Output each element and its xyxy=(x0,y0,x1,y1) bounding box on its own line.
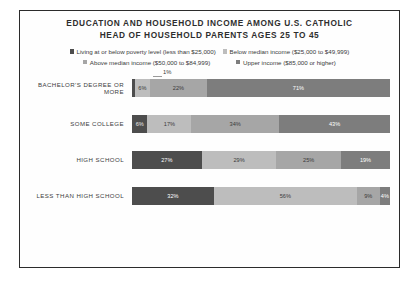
legend-item-upper-income: Upper income ($85,000 or higher) xyxy=(236,59,336,66)
legend-swatch-icon xyxy=(223,49,227,53)
legend-label: Below median income ($25,000 to $49,999) xyxy=(230,48,350,55)
chart-title-line-2: HEAD OF HOUSEHOLD PARENTS AGES 25 TO 45 xyxy=(32,30,387,42)
chart-title: EDUCATION AND HOUSEHOLD INCOME AMONG U.S… xyxy=(20,18,399,41)
bar-segment[interactable]: 29% xyxy=(202,151,277,169)
stacked-bar: 6%22%71% xyxy=(132,79,390,97)
bar-row: SOME COLLEGE6%17%34%43% xyxy=(20,115,399,133)
legend-item-below-median: Below median income ($25,000 to $49,999) xyxy=(223,48,349,55)
category-label: HIGH SCHOOL xyxy=(20,156,132,163)
bar-segment[interactable]: 56% xyxy=(214,187,357,205)
category-label: SOME COLLEGE xyxy=(20,120,132,127)
category-label: BACHELOR'S DEGREE OR MORE xyxy=(20,81,132,95)
bar-segment[interactable]: 22% xyxy=(150,79,207,97)
bar-segment[interactable]: 34% xyxy=(191,115,279,133)
bar-segment[interactable]: 32% xyxy=(132,187,214,205)
bar-segment[interactable]: 19% xyxy=(341,151,390,169)
bar-segment[interactable]: 43% xyxy=(279,115,390,133)
bar-segment[interactable]: 71% xyxy=(207,79,390,97)
callout-label-1-percent: 1% xyxy=(163,69,171,75)
legend-label: Living at or below poverty level (less t… xyxy=(76,48,215,55)
chart-legend: Living at or below poverty level (less t… xyxy=(20,48,399,66)
stacked-bar: 32%56%9%4% xyxy=(132,187,390,205)
legend-item-poverty: Living at or below poverty level (less t… xyxy=(70,48,216,55)
chart-frame: EDUCATION AND HOUSEHOLD INCOME AMONG U.S… xyxy=(19,10,400,268)
legend-swatch-icon xyxy=(236,60,240,64)
bar-row: LESS THAN HIGH SCHOOL32%56%9%4% xyxy=(20,187,399,205)
callout-leader-line xyxy=(153,76,162,77)
bar-segment[interactable]: 27% xyxy=(132,151,202,169)
chart-title-line-1: EDUCATION AND HOUSEHOLD INCOME AMONG U.S… xyxy=(32,18,387,30)
bar-segment[interactable]: 25% xyxy=(276,151,341,169)
legend-label: Above median income ($50,000 to $84,999) xyxy=(90,59,210,66)
bar-row: HIGH SCHOOL27%29%25%19% xyxy=(20,151,399,169)
bar-segment[interactable]: 6% xyxy=(132,115,147,133)
bar-segment[interactable]: 4% xyxy=(380,187,390,205)
callout-area: 1% xyxy=(20,70,399,79)
stacked-bar: 27%29%25%19% xyxy=(132,151,390,169)
bar-segment[interactable]: 6% xyxy=(135,79,150,97)
stacked-bar: 6%17%34%43% xyxy=(132,115,390,133)
legend-label: Upper income ($85,000 or higher) xyxy=(243,59,336,66)
legend-swatch-icon xyxy=(70,49,74,53)
legend-row-2: Above median income ($50,000 to $84,999)… xyxy=(34,59,385,66)
bar-segment[interactable]: 9% xyxy=(357,187,380,205)
bar-rows: BACHELOR'S DEGREE OR MORE6%22%71%SOME CO… xyxy=(20,79,399,205)
legend-swatch-icon xyxy=(83,60,87,64)
legend-row-1: Living at or below poverty level (less t… xyxy=(34,48,385,55)
legend-item-above-median: Above median income ($50,000 to $84,999) xyxy=(83,59,210,66)
plot-area: 1% BACHELOR'S DEGREE OR MORE6%22%71%SOME… xyxy=(20,70,399,205)
bar-row: BACHELOR'S DEGREE OR MORE6%22%71% xyxy=(20,79,399,97)
bar-segment[interactable]: 17% xyxy=(147,115,191,133)
category-label: LESS THAN HIGH SCHOOL xyxy=(20,192,132,199)
